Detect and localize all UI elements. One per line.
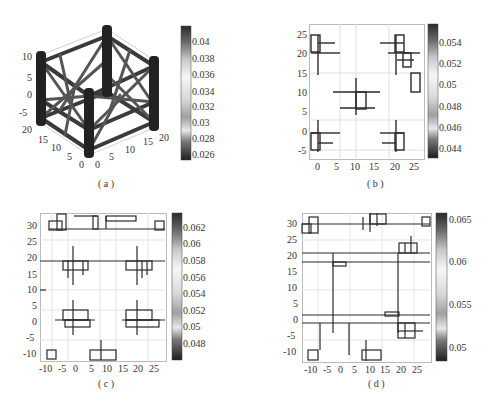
- y-tick: 20: [287, 251, 297, 261]
- y-tick: 0: [293, 315, 298, 325]
- y-tick: 30: [287, 219, 297, 229]
- y-tick: 15: [287, 267, 297, 277]
- colorbar-tick: 0.06: [449, 257, 467, 267]
- layout-lines-d: [0, 0, 489, 403]
- x-tick: 5: [352, 365, 357, 375]
- y-tick: 25: [287, 235, 297, 245]
- x-tick: -5: [323, 365, 331, 375]
- x-tick: 25: [412, 365, 422, 375]
- x-tick: 10: [365, 365, 375, 375]
- y-tick: -10: [283, 347, 296, 357]
- colorbar-d: [436, 213, 447, 361]
- x-tick: 15: [380, 365, 390, 375]
- colorbar-tick: 0.065: [449, 215, 472, 225]
- colorbar-tick: 0.055: [449, 300, 472, 310]
- x-tick: -10: [304, 365, 317, 375]
- x-tick: 0: [338, 365, 343, 375]
- colorbar-tick: 0.05: [449, 343, 467, 353]
- caption-d: ( d ): [368, 378, 385, 389]
- x-tick: 20: [396, 365, 406, 375]
- y-tick: 5: [293, 299, 298, 309]
- y-tick: 10: [287, 283, 297, 293]
- y-tick: -5: [287, 331, 295, 341]
- panel-d: 30 25 20 15 10 5 0 -5 -10 -10 -5 0 5 10 …: [0, 0, 489, 403]
